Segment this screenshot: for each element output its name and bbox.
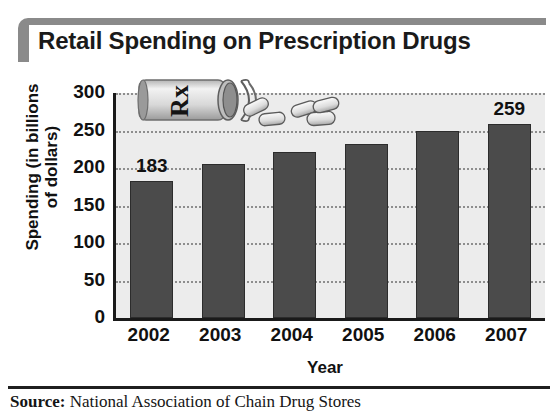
y-axis-tick-label: 100 [59, 231, 105, 253]
bar-slot [416, 93, 459, 318]
bar-2004[interactable] [273, 152, 316, 319]
x-axis-tick-label-2007: 2007 [471, 324, 543, 346]
source-value: National Association of Chain Drug Store… [65, 392, 361, 411]
x-axis-tick-label-2003: 2003 [185, 324, 257, 346]
y-axis-label-line-1: Spending (in billions [23, 47, 42, 287]
source-divider [8, 386, 550, 389]
bar-2002[interactable] [130, 181, 173, 318]
y-axis-tick-label: 150 [59, 194, 105, 216]
gridline [116, 131, 545, 133]
y-axis-tick-label: 200 [59, 156, 105, 178]
x-axis-tick-label-2006: 2006 [399, 324, 471, 346]
gridline [116, 168, 545, 170]
bar-2005[interactable] [345, 144, 388, 318]
y-axis-tick-label: 300 [59, 81, 105, 103]
y-axis-tick-label: 0 [59, 306, 105, 328]
chart-title-block: Retail Spending on Prescription Drugs [18, 18, 546, 62]
x-axis-tick-label-2005: 2005 [328, 324, 400, 346]
plot-inner: 183259 [116, 93, 545, 318]
chart-title: Retail Spending on Prescription Drugs [38, 27, 471, 55]
gridline [116, 281, 545, 283]
bar-2007[interactable] [488, 124, 531, 318]
y-axis-tick-label: 250 [59, 119, 105, 141]
x-axis-tick-label-2004: 2004 [256, 324, 328, 346]
gridline [116, 206, 545, 208]
source-label: Source: [10, 392, 65, 411]
bar-slot [273, 93, 316, 318]
bar-slot: 259 [488, 93, 531, 318]
gridline [116, 243, 545, 245]
x-axis-label: Year [110, 358, 540, 378]
bar-slot [202, 93, 245, 318]
plot-area: 183259 [113, 93, 545, 321]
x-axis-tick-label-2002: 2002 [113, 324, 185, 346]
bar-slot [345, 93, 388, 318]
bar-2003[interactable] [202, 164, 245, 318]
y-axis-label: Spending (in billions of dollars) [23, 47, 61, 287]
y-axis-tick-label: 50 [59, 269, 105, 291]
bar-slot: 183 [130, 93, 173, 318]
bar-2006[interactable] [416, 131, 459, 319]
bar-value-label-2007: 259 [493, 98, 525, 120]
source-note: Source: National Association of Chain Dr… [10, 392, 361, 412]
bar-value-label-2002: 183 [136, 155, 168, 177]
gridline [116, 93, 545, 95]
